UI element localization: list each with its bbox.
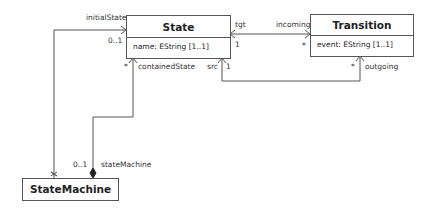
class-transition[interactable]: Transition event: EString [1..1]: [310, 14, 414, 57]
label-outgoing-role: outgoing: [365, 62, 398, 71]
label-contained-state-role: containedState: [138, 62, 195, 71]
label-incoming-multiplicity: *: [302, 41, 306, 50]
label-state-machine-role: stateMachine: [101, 160, 151, 169]
edge-src-outgoing: [222, 56, 360, 81]
composition-diamond-icon: [90, 168, 96, 178]
class-state[interactable]: State name: EString [1..1]: [126, 15, 231, 59]
label-incoming-role: incoming: [276, 20, 310, 29]
class-state-machine[interactable]: StateMachine: [22, 178, 119, 201]
edge-initial-state: [54, 30, 126, 178]
label-src-multiplicity: 1: [226, 62, 231, 71]
edge-contained-state: [93, 58, 133, 170]
label-outgoing-multiplicity: *: [351, 62, 355, 71]
class-transition-attribute: event: EString [1..1]: [311, 36, 413, 54]
label-contained-state-multiplicity: *: [124, 62, 128, 71]
label-initial-state-role: initialState: [86, 13, 126, 22]
label-tgt-role: tgt: [235, 20, 246, 29]
label-src-role: src: [207, 62, 218, 71]
class-transition-name: Transition: [311, 15, 413, 36]
label-state-machine-multiplicity: 0..1: [73, 160, 87, 169]
class-state-attribute: name: EString [1..1]: [127, 38, 230, 56]
class-state-machine-name: StateMachine: [23, 179, 118, 200]
label-initial-state-multiplicity: 0..1: [108, 36, 122, 45]
class-state-name: State: [127, 16, 230, 38]
label-tgt-multiplicity: 1: [235, 40, 240, 49]
